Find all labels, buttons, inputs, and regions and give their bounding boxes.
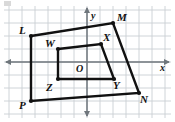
coordinate-plane-svg [0, 0, 175, 122]
axis-label-y: y [91, 11, 95, 21]
vertex-label-Y: Y [113, 80, 120, 91]
vertex-label-Z: Z [46, 82, 53, 93]
vertex-label-W: W [45, 38, 55, 49]
vertex-dot-Z [56, 77, 60, 81]
axis-label-x: x [160, 63, 165, 73]
vertex-label-X: X [103, 32, 110, 43]
vertex-label-M: M [117, 12, 127, 23]
vertex-label-N: N [140, 94, 148, 105]
vertex-dot-P [29, 99, 33, 103]
vertex-label-L: L [19, 25, 26, 36]
vertex-label-P: P [19, 100, 26, 111]
origin-label: O [76, 64, 83, 74]
vertex-dot-W [56, 47, 60, 51]
vertex-dot-L [29, 34, 33, 38]
x-axis-arrow-left [5, 59, 11, 65]
diagram-canvas: x y O L M N P W X Y Z [0, 0, 175, 122]
vertex-dot-M [111, 21, 115, 25]
